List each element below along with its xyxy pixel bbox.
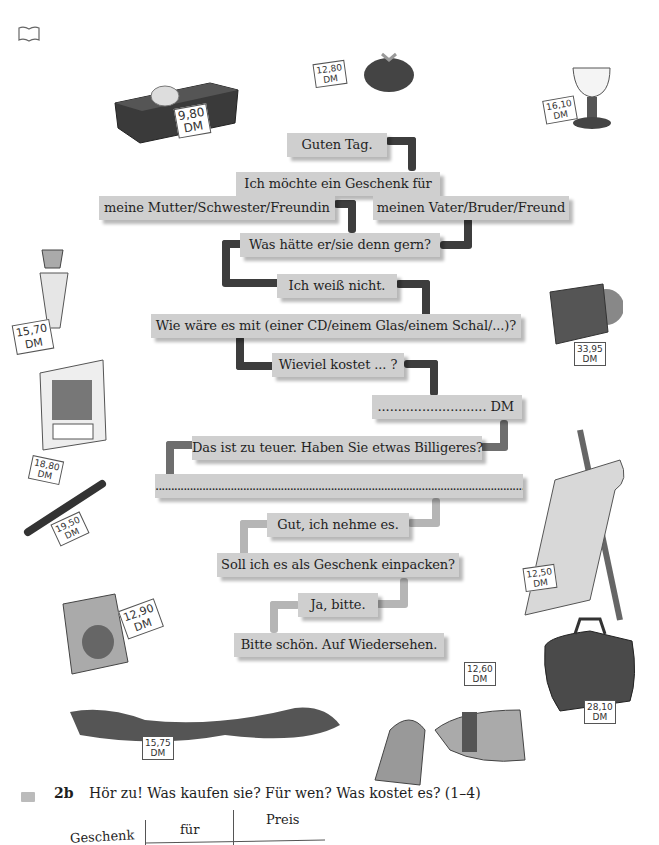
column-divider [233, 810, 234, 845]
cassette-icon [21, 792, 35, 802]
table-header-preis: Preis [266, 812, 299, 827]
connector [236, 362, 276, 370]
header-underline [145, 839, 325, 843]
gloves-illustration [370, 690, 530, 790]
dialogue-price-blank: ........................... DM [372, 395, 522, 419]
table-header-geschenk: Geschenk [70, 827, 135, 845]
connector [376, 600, 408, 608]
table-header-fuer: für [180, 822, 199, 837]
dialogue-bitte-schoen: Bitte schön. Auf Wiedersehen. [234, 633, 444, 657]
price-tag-perfume: 15,70DM [12, 319, 54, 355]
connector [480, 443, 508, 451]
book-illustration [60, 592, 130, 677]
price-tag-chocolates: 9,80DM [174, 103, 211, 138]
purse-illustration [362, 48, 417, 93]
scarf-illustration [65, 700, 345, 755]
price-tag-cd: 33,95DM [574, 342, 606, 366]
book-icon [18, 25, 40, 43]
dialogue-gut: Gut, ich nehme es. [267, 513, 409, 537]
price-tag-scarf: 15,75DM [142, 736, 174, 760]
column-divider [145, 820, 146, 845]
calendar-illustration [38, 358, 108, 453]
connector [240, 520, 248, 556]
dialogue-ich-moechte: Ich möchte ein Geschenk für [236, 172, 440, 196]
price-tag-gloves: 12,60DM [464, 662, 496, 686]
connector [408, 137, 416, 171]
dialogue-zu-teuer: Das ist zu teuer. Haben Sie etwas Billig… [192, 436, 482, 460]
wine-glass-illustration [568, 65, 618, 135]
dialogue-guten-tag: Guten Tag. [287, 133, 387, 157]
connector [348, 200, 356, 233]
dialogue-vater: meinen Vater/Bruder/Freund [373, 196, 569, 220]
price-tag-purse: 12,80DM [312, 60, 347, 88]
connector [408, 519, 440, 527]
dialogue-mutter: meine Mutter/Schwester/Freundin [99, 196, 335, 220]
dialogue-ja-bitte: Ja, bitte. [298, 593, 378, 617]
exercise-instruction: Hör zu! Was kaufen sie? Für wen? Was kos… [89, 785, 481, 801]
connector [166, 441, 174, 477]
dialogue-answer-blank[interactable]: ........................................… [155, 474, 523, 498]
dialogue-weiss-nicht: Ich weiß nicht. [277, 274, 397, 298]
price-tag-poster: 12,50DM [522, 564, 557, 592]
dialogue-einpacken: Soll ich es als Geschenk einpacken? [217, 553, 459, 577]
connector [270, 601, 278, 633]
price-tag-bag: 28,10DM [584, 700, 616, 724]
connector [440, 241, 472, 249]
poster-illustration [520, 420, 645, 630]
dialogue-was-haette: Was hätte er/sie denn gern? [240, 233, 440, 257]
connector [430, 360, 438, 396]
dialogue-wie-waere: Wie wäre es mit (einer CD/einem Glas/ein… [151, 314, 521, 338]
dialogue-wieviel: Wieviel kostet ... ? [272, 353, 404, 377]
exercise-number: 2b [54, 785, 74, 801]
connector [222, 279, 280, 287]
